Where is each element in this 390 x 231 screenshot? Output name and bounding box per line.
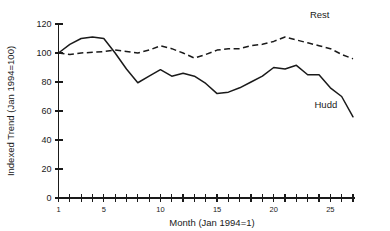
x-axis-ticks: 1510152025	[56, 194, 353, 214]
y-tick-label: 120	[36, 19, 51, 29]
series-annotations: HuddRest	[310, 9, 337, 110]
y-tick-label: 40	[41, 135, 51, 145]
y-tick-label: 0	[46, 193, 51, 203]
series-label-rest: Rest	[310, 9, 330, 20]
x-tick-label: 1	[56, 205, 60, 214]
y-tick-label: 60	[41, 106, 51, 116]
y-tick-label: 100	[36, 48, 51, 58]
series-label-hudd: Hudd	[314, 99, 337, 110]
y-axis-title: Indexed Trend (Jan 1994=100)	[5, 46, 16, 176]
x-axis-title: Month (Jan 1994=1)	[169, 217, 254, 228]
series-lines	[59, 37, 354, 117]
y-tick-label: 80	[41, 77, 51, 87]
y-tick-label: 20	[41, 164, 51, 174]
x-tick-label: 15	[213, 205, 221, 214]
x-tick-label: 5	[102, 205, 106, 214]
x-tick-label: 10	[156, 205, 164, 214]
chart-container: 020406080100120 1510152025 HuddRest Mont…	[0, 0, 390, 231]
x-tick-label: 20	[270, 205, 278, 214]
series-line-hudd	[59, 37, 354, 117]
x-tick-label: 25	[326, 205, 334, 214]
line-chart: 020406080100120 1510152025 HuddRest Mont…	[0, 0, 390, 231]
series-line-rest	[59, 37, 354, 59]
